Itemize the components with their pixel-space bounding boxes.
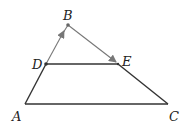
point-d — [44, 62, 48, 66]
label-d: D — [31, 57, 43, 72]
point-b — [66, 23, 70, 27]
segment-be-arrow — [68, 25, 116, 62]
point-e — [117, 63, 119, 65]
label-b: B — [62, 8, 73, 23]
segment-ec — [118, 64, 168, 104]
label-a: A — [11, 109, 21, 124]
label-c: C — [169, 109, 179, 124]
label-e: E — [121, 54, 132, 69]
triangle-diagram: B D E A C — [0, 0, 187, 131]
segment-db-arrow — [46, 31, 64, 64]
